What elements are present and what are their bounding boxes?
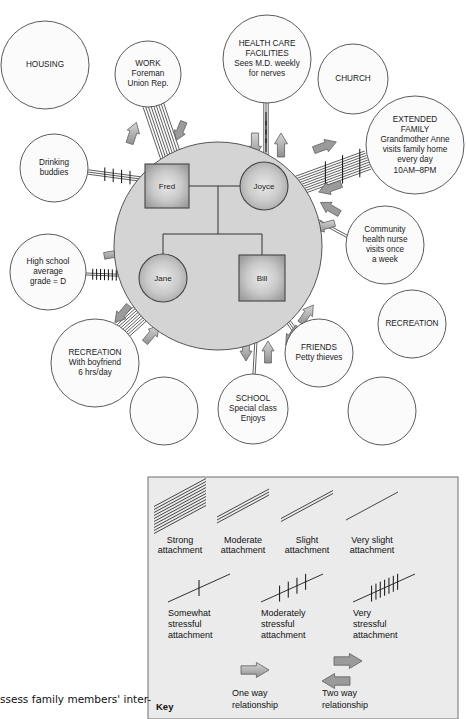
relationship-arrow [126,123,139,145]
eco-node-label: HEALTH CARE [239,39,296,48]
eco-node-label: CHURCH [335,74,371,83]
eco-node-circle [348,377,416,445]
eco-node-work: WORKForemanUnion Rep. [115,41,181,107]
eco-node-label: Drinking [39,158,69,167]
family-unit: FredJoyceJaneBill [114,142,322,350]
eco-node-label: every day [397,155,433,164]
legend-one-way-label2: relationship [232,700,278,710]
legend-attachment-label2: attachment [285,545,330,555]
eco-node-label: RECREATION [68,348,121,357]
legend-two-way-label1: Two way [322,688,358,698]
eco-node-label: grade = D [30,277,66,286]
eco-node-label: 6 hrs/day [78,368,113,377]
eco-node-label: FACILITIES [245,49,289,58]
legend-two-way-label2: relationship [322,700,368,710]
eco-node-label: a week [372,255,399,264]
eco-node-label: 10AM–8PM [394,166,437,175]
eco-node-blank_1 [130,377,198,445]
eco-node-label: Grandmother Anne [380,135,450,144]
relationship-arrow [319,181,343,195]
eco-node-label: visits once [366,245,405,254]
member-name: Jane [154,274,172,283]
ecomap-figure: FredJoyceJaneBill HOUSINGWORKForemanUnio… [0,0,466,719]
eco-node-label: RECREATION [385,319,438,328]
legend-stress-label: attachment [168,630,213,640]
legend-stress-label: Moderately [261,608,306,618]
legend-attachment-label: Moderate [224,535,262,545]
figure-caption: ssess family members' inter- [0,693,151,705]
legend-stress-label: Very [353,608,372,618]
eco-node-label: WORK [135,59,161,68]
relationship-arrow [174,121,187,141]
legend-attachment-label: Strong [167,535,194,545]
eco-node-label: visits family home [383,145,448,154]
eco-node-recreation_right: RECREATION [378,290,446,358]
eco-node-friends: FRIENDSPetty thieves [285,319,353,387]
attachment-line [88,170,148,178]
eco-node-label: average [33,267,63,276]
legend-attachment-label2: attachment [158,545,203,555]
eco-node-label: Foreman [132,69,165,78]
legend-key: StrongattachmentModerateattachmentSlight… [148,477,458,719]
eco-node-label: health nurse [362,235,408,244]
eco-node-health_care: HEALTH CAREFACILITIESSees M.D. weeklyfor… [223,15,311,103]
eco-node-blank_2 [348,377,416,445]
eco-node-community_nurse: Communityhealth nursevisits oncea week [346,206,424,284]
eco-node-label: buddies [40,168,69,177]
family-member-fred: Fred [145,164,189,208]
eco-node-label: Enjoys [241,414,266,423]
eco-node-label: Community [364,225,406,234]
figure-caption-text: ssess family members' inter- [0,693,151,705]
eco-node-church: CHURCH [318,44,388,114]
eco-node-label: Union Rep. [128,79,169,88]
eco-node-label: With boyfriend [69,358,122,367]
eco-node-label: High school [27,257,70,266]
eco-node-label: Petty thieves [296,353,343,362]
legend-box [148,477,458,719]
eco-node-label: Sees M.D. weekly [234,59,300,68]
eco-node-label: FRIENDS [301,343,337,352]
legend-stress-label: attachment [353,630,398,640]
eco-node-recreation_jane: RECREATIONWith boyfriend6 hrs/day [51,319,139,407]
relationship-arrow [321,202,342,216]
legend-stress-label: Somewhat [168,608,211,618]
family-member-jane: Jane [139,254,187,302]
eco-node-label: SCHOOL [236,394,271,403]
legend-stress-label: attachment [261,630,306,640]
member-name: Joyce [254,182,275,191]
legend-one-way-label1: One way [232,688,268,698]
relationship-arrow [262,341,274,363]
family-member-bill: Bill [239,255,285,301]
eco-node-extended_family: EXTENDEDFAMILYGrandmother Annevisits fam… [366,96,464,194]
member-name: Bill [257,274,268,283]
eco-node-high_school: High schoolaveragegrade = D [10,234,86,310]
legend-stress-label: stressful [168,619,202,629]
legend-stress-label: stressful [261,619,295,629]
eco-node-drinking_buddies: Drinkingbuddies [20,134,88,202]
member-name: Fred [159,182,175,191]
relationship-arrow [313,140,337,154]
eco-node-label: Special class [229,404,277,413]
legend-attachment-label: Slight [296,535,319,545]
eco-node-label: for nerves [249,69,285,78]
ecomap-canvas: FredJoyceJaneBill HOUSINGWORKForemanUnio… [0,0,466,719]
eco-node-school: SCHOOLSpecial classEnjoys [218,374,288,444]
family-member-joyce: Joyce [240,162,288,210]
relationship-arrow [115,303,132,322]
eco-node-circle [130,377,198,445]
eco-node-housing: HOUSING [1,21,89,109]
legend-attachment-label2: attachment [350,545,395,555]
eco-node-label: FAMILY [401,125,430,134]
legend-attachment-label: Very slight [351,535,393,545]
legend-attachment-label2: attachment [221,545,266,555]
legend-stress-label: stressful [353,619,387,629]
relationship-arrow [275,133,288,157]
eco-node-label: HOUSING [26,60,64,69]
legend-key-word: Key [156,701,174,712]
eco-node-label: EXTENDED [393,115,438,124]
